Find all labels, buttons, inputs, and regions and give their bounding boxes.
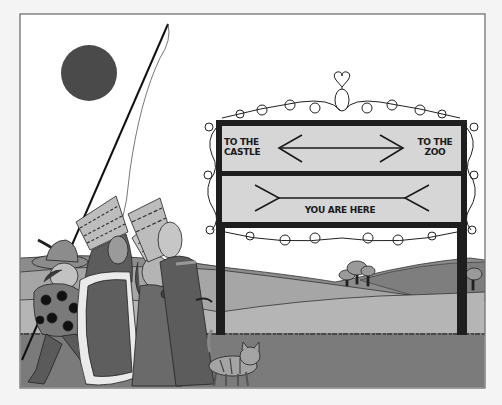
castle-line-2: CASTLE xyxy=(224,147,260,157)
sign-zoo-label: TO THE ZOO xyxy=(412,137,458,157)
illustration-scene xyxy=(0,0,502,405)
zoo-line-2: ZOO xyxy=(412,147,458,157)
sign-castle-label: TO THE CASTLE xyxy=(224,137,260,157)
sign-you-are-here: YOU ARE HERE xyxy=(280,205,400,215)
castle-line-1: TO THE xyxy=(224,137,260,147)
zoo-line-1: TO THE xyxy=(412,137,458,147)
sun xyxy=(61,45,117,101)
